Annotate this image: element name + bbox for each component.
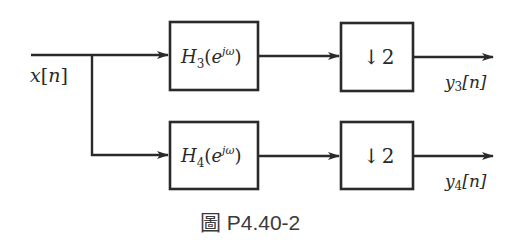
downsampler-bottom-label: ↓2 (363, 144, 395, 168)
output-y4-label: y4[n] (444, 171, 487, 193)
figure-icon: 圖 (200, 211, 221, 234)
branch-top: H3(ejω) ↓2 y3[n] (170, 22, 493, 94)
down-arrow-icon: ↓ (363, 45, 380, 69)
branch-bottom: H4(ejω) ↓2 y4[n] (170, 122, 493, 193)
input-label: x[n] (30, 64, 68, 86)
filter-bank-diagram: x[n] H3(ejω) ↓2 y3[n] H4(ejω) ↓2 y4[n] (0, 0, 518, 247)
output-y3-label: y3[n] (444, 72, 487, 94)
branch-wire (92, 55, 168, 155)
figure-caption: 圖P4.40-2 (200, 211, 301, 234)
down-arrow-icon: ↓ (363, 144, 380, 168)
downsampler-top-label: ↓2 (363, 45, 395, 69)
input-signal: x[n] (30, 55, 168, 155)
